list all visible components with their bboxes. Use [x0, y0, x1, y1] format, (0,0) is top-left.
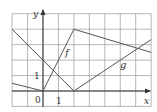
function-graph: y x 0 1 1 f g [0, 0, 157, 112]
x-axis-label: x [144, 96, 149, 106]
y-axis-label: y [32, 9, 39, 19]
grid [12, 14, 151, 107]
g-label: g [120, 59, 126, 70]
y-tick-label: 1 [34, 71, 40, 81]
f-label: f [64, 47, 71, 58]
axes [12, 9, 151, 107]
x-tick-label: 1 [56, 96, 62, 106]
x-axis-arrow-icon [145, 89, 151, 94]
origin-label: 0 [35, 95, 41, 105]
y-axis-arrow-icon [41, 9, 46, 15]
